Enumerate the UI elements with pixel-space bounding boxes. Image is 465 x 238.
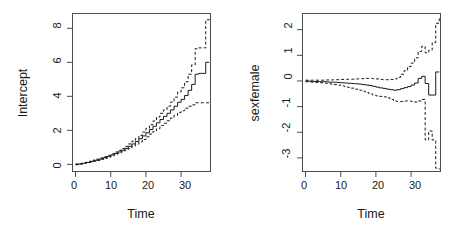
- y-tick-label: -1: [281, 92, 292, 114]
- y-axis-title-sexfemale: sexfemale: [248, 48, 262, 138]
- figure-canvas: 0 2 4 6 8 0 10 20 30 Intercept Time -3 -…: [0, 0, 465, 238]
- y-tick-label: 0: [283, 66, 294, 88]
- y-axis-title-intercept: Intercept: [16, 53, 30, 133]
- y-tick-label: 0: [52, 156, 63, 176]
- panel-sexfemale: -3 -2 -1 0 1 2 0 10 20 30 sexfemale Time: [232, 0, 464, 238]
- x-tick-label: 10: [99, 180, 123, 191]
- y-tick-label: -3: [281, 143, 292, 165]
- x-axis-title-sexfemale: Time: [331, 207, 411, 221]
- x-tick-label: 0: [292, 180, 316, 191]
- x-tick-label: 20: [136, 180, 160, 191]
- y-tick-label: 6: [52, 51, 63, 71]
- axis-ticks-intercept: [62, 8, 222, 188]
- panel-intercept: 0 2 4 6 8 0 10 20 30 Intercept Time: [0, 0, 232, 238]
- x-tick-label: 30: [403, 180, 427, 191]
- y-tick-label: 4: [52, 86, 63, 106]
- y-tick-label: 2: [52, 121, 63, 141]
- x-axis-title-intercept: Time: [101, 207, 181, 221]
- x-tick-label: 20: [366, 180, 390, 191]
- x-tick-label: 10: [329, 180, 353, 191]
- x-tick-label: 0: [62, 180, 86, 191]
- axis-ticks-sexfemale: [292, 8, 452, 188]
- y-tick-label: 2: [283, 15, 294, 37]
- x-tick-label: 30: [173, 180, 197, 191]
- y-tick-label: 1: [283, 40, 294, 62]
- y-tick-label: -2: [281, 117, 292, 139]
- y-tick-label: 8: [52, 16, 63, 36]
